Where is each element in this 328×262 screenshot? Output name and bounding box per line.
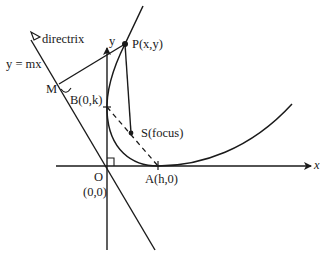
right-angle-marker-m: [61, 88, 71, 92]
y-axis-label: y: [109, 34, 116, 48]
origin-coords-label: (0,0): [83, 185, 107, 199]
directrix-label: directrix: [42, 32, 85, 46]
parabola-diagram: directrix y = mx y x P(x,y) M B(0,k) S(f…: [0, 0, 328, 262]
point-b-label: B(0,k): [70, 93, 102, 107]
origin-label: O: [94, 170, 103, 184]
right-angle-marker-origin: [107, 158, 114, 166]
focus-label: S(focus): [141, 126, 183, 140]
parabola-curve: [107, 6, 292, 166]
point-m-label: M: [46, 82, 57, 96]
focus-dot: [129, 131, 134, 136]
point-p-label: P(x,y): [132, 37, 163, 51]
segment-ps: [125, 44, 131, 133]
point-p-dot: [122, 41, 128, 47]
segment-pm: [59, 44, 125, 84]
vertex-a-label: A(h,0): [145, 172, 178, 186]
directrix-line: [31, 40, 155, 250]
directrix-pointer-icon: [31, 32, 40, 40]
directrix-equation-label: y = mx: [6, 57, 42, 71]
x-axis-label: x: [313, 158, 320, 172]
